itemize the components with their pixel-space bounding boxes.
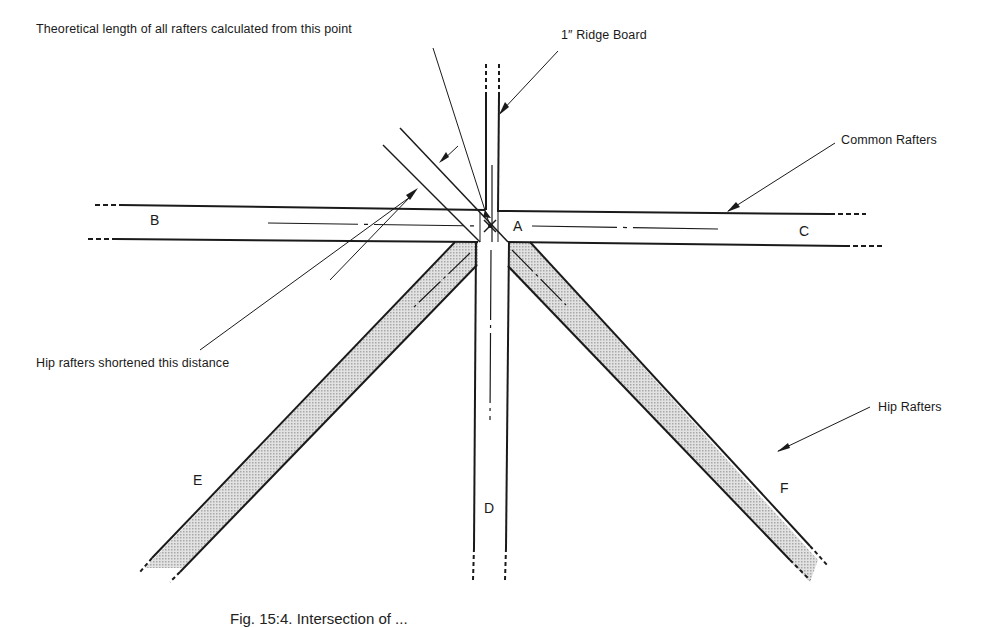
hip-shortened-callout: Hip rafters shortened this distance (36, 356, 229, 370)
hip-rafters-callout: Hip Rafters (878, 400, 942, 414)
hip-shortening-lines (200, 128, 508, 350)
common-rafter-b (88, 205, 485, 242)
common-rafters-leader (727, 143, 835, 212)
hip-rafter-f (508, 242, 828, 582)
hip-rafter-e (140, 242, 478, 582)
common-rafters-callout: Common Rafters (841, 133, 937, 147)
theoretical-length-callout: Theoretical length of all rafters calcul… (36, 22, 352, 36)
label-f: F (780, 480, 789, 496)
common-rafter-d (473, 242, 509, 580)
label-e: E (193, 472, 202, 488)
ridge-board-leader (499, 51, 558, 115)
label-b: B (150, 212, 159, 228)
common-rafter-c (498, 211, 882, 246)
label-d: D (484, 500, 494, 516)
ridge-board-callout: 1″ Ridge Board (561, 28, 647, 42)
figure-caption: Fig. 15:4. Intersection of ... (230, 610, 408, 627)
hip-rafters-leader (777, 407, 870, 452)
label-a: A (513, 218, 522, 234)
label-c: C (799, 223, 809, 239)
